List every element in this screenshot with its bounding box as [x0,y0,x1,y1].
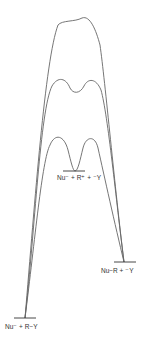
reactants-label: Nu⁻ + R−Y [5,323,38,330]
intermediate-label: Nu⁻ + R⁺ + ⁻Y [57,174,102,181]
products-label: Nu−R + ⁻Y [101,267,134,274]
energy-diagram: Nu⁻ + R−Y Nu⁻ + R⁺ + ⁻Y Nu−R + ⁻Y [0,0,146,341]
inner-curve [25,137,124,318]
